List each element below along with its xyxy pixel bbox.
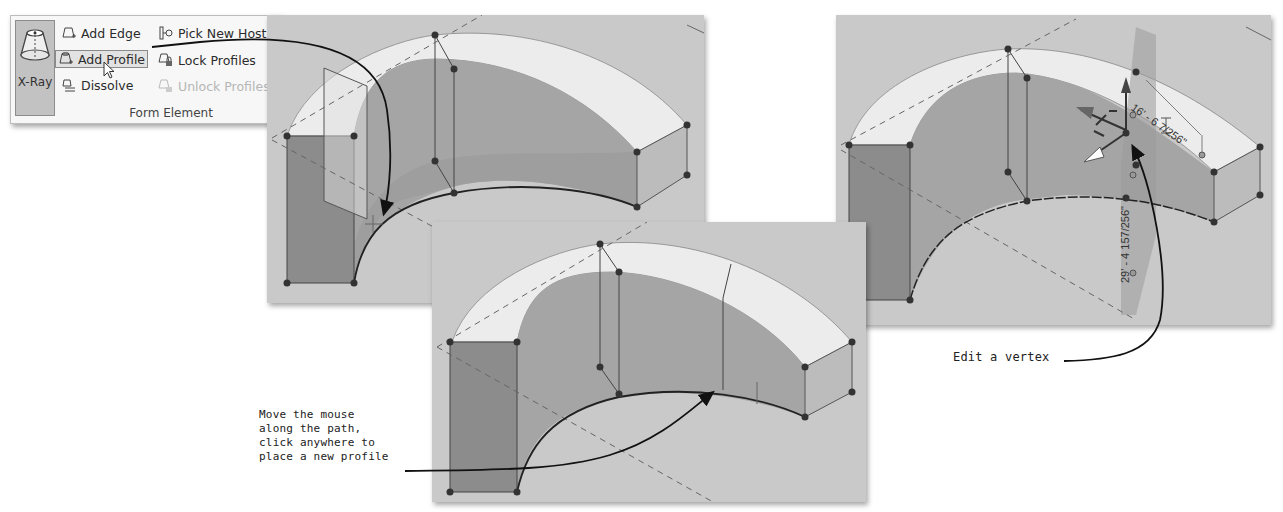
pick-new-host-icon [158, 25, 174, 41]
vertical-dimension[interactable]: 29' - 4 157/256" [1119, 206, 1131, 283]
lock-profiles-label: Lock Profiles [178, 53, 256, 68]
edit-vertex-callout: Edit a vertex [953, 350, 1050, 364]
form-element-group-label: Form Element [61, 106, 281, 120]
dissolve-icon [61, 77, 77, 93]
x-ray-icon [16, 21, 54, 71]
sweep-form-new-profile-drawing [432, 222, 866, 502]
x-ray-button[interactable]: X-Ray [15, 20, 55, 116]
dissolve-button[interactable]: Dissolve [61, 77, 133, 93]
unlock-profiles-button[interactable]: Unlock Profiles [158, 78, 270, 94]
move-mouse-callout: Move the mouse along the path, click any… [259, 408, 389, 464]
add-profile-icon [58, 51, 74, 67]
unlock-profiles-icon [158, 78, 174, 94]
callout-line-3: click anywhere to [259, 436, 389, 450]
pick-new-host-label: Pick New Host [178, 26, 267, 41]
callout-line-1: Move the mouse [259, 408, 389, 422]
callout-line-2: along the path, [259, 422, 389, 436]
mouse-cursor-icon [103, 61, 117, 81]
viewport-edit-vertex[interactable]: 16' - 6 7/256" 29' - 4 157/256" [836, 15, 1271, 325]
lock-profiles-button[interactable]: Lock Profiles [158, 52, 256, 68]
pick-new-host-button[interactable]: Pick New Host [158, 25, 267, 41]
sweep-form-edit-drawing [836, 15, 1271, 325]
form-element-ribbon-panel: X-Ray Add Edge Pick New Host Add Profile… [10, 15, 282, 124]
add-profile-button[interactable]: Add Profile [55, 50, 148, 68]
x-ray-label: X-Ray [16, 75, 54, 89]
callout-line-4: place a new profile [259, 450, 389, 464]
add-edge-icon [61, 25, 77, 41]
add-edge-label: Add Edge [81, 26, 141, 41]
lock-profiles-icon [158, 52, 174, 68]
add-edge-button[interactable]: Add Edge [61, 25, 141, 41]
viewport-add-profile[interactable] [432, 222, 866, 502]
unlock-profiles-label: Unlock Profiles [178, 79, 270, 94]
